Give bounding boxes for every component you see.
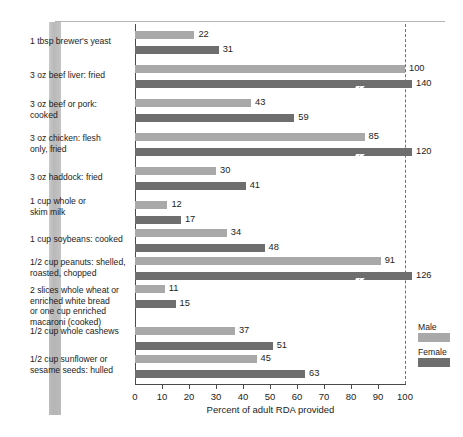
legend-label-female: Female: [418, 347, 460, 358]
x-axis-tick-label: 10: [157, 391, 168, 402]
x-axis-tick: [324, 384, 325, 389]
bar-value-label: 59: [298, 112, 308, 122]
legend-swatch-male: [418, 333, 450, 342]
x-axis-tick: [216, 384, 217, 389]
bar-value-label: 12: [171, 199, 181, 209]
bar-female: [135, 244, 265, 252]
bar-female: [135, 46, 219, 54]
x-axis-tick-label: 30: [211, 391, 222, 402]
x-axis-tick: [270, 384, 271, 389]
x-axis-tick: [297, 384, 298, 389]
bar-value-label: 45: [261, 353, 271, 363]
bar-male: [135, 99, 251, 107]
bar-male: [135, 167, 216, 175]
bar-male: [135, 65, 405, 73]
category-label: 1 tbsp brewer's yeast: [30, 36, 133, 47]
x-axis-tick: [351, 384, 352, 389]
x-axis-tick-label: 40: [238, 391, 249, 402]
bar-female: [135, 148, 412, 156]
category-label: 3 oz haddock: fried: [30, 172, 133, 183]
bar-value-label: 11: [169, 283, 179, 293]
bar-value-label: 120: [416, 146, 432, 156]
chart-figure: 1 tbsp brewer's yeast3 oz beef liver: fr…: [0, 0, 463, 437]
category-label: 1 cup soybeans: cooked: [30, 234, 133, 245]
bar-male: [135, 229, 227, 237]
category-label: 1/2 cup whole cashews: [30, 326, 133, 337]
bar-value-label: 37: [239, 325, 249, 335]
category-label: 3 oz beef or pork:cooked: [30, 99, 133, 120]
bar-female: [135, 300, 176, 308]
x-axis-tick-label: 70: [319, 391, 330, 402]
category-label: 2 slices whole wheat orenriched white br…: [30, 285, 133, 327]
bar-value-label: 43: [255, 97, 265, 107]
legend: Male Female: [418, 322, 460, 372]
bar-value-label: 126: [416, 270, 432, 280]
bar-male: [135, 355, 257, 363]
x-axis-tick: [162, 384, 163, 389]
bar-value-label: 34: [231, 227, 241, 237]
x-axis-tick-label: 20: [184, 391, 195, 402]
bar-value-label: 17: [185, 214, 195, 224]
bar-female: [135, 272, 412, 280]
category-label: 1 cup whole orskim milk: [30, 196, 133, 217]
bar-female: [135, 182, 246, 190]
bar-female: [135, 114, 294, 122]
legend-swatch-female: [418, 358, 450, 367]
x-axis-tick-label: 90: [373, 391, 384, 402]
x-axis-tick-label: 100: [397, 391, 413, 402]
bar-female: [135, 80, 412, 88]
category-label: 1/2 cup sunflower orsesame seeds: hulled: [30, 354, 133, 375]
bar-value-label: 31: [223, 44, 233, 54]
bar-value-label: 140: [416, 78, 432, 88]
bar-male: [135, 257, 381, 265]
bar-female: [135, 370, 305, 378]
bar-value-label: 22: [198, 29, 208, 39]
bar-value-label: 15: [180, 298, 190, 308]
figure-top-rule: [55, 21, 445, 22]
legend-label-male: Male: [418, 322, 460, 333]
category-label: 1/2 cup peanuts: shelled,roasted, choppe…: [30, 257, 133, 278]
bar-value-label: 48: [269, 242, 279, 252]
x-axis-tick-label: 80: [346, 391, 357, 402]
bar-value-label: 51: [277, 340, 287, 350]
category-label: 3 oz beef liver: fried: [30, 70, 133, 81]
bar-value-label: 30: [220, 165, 230, 175]
bar-male: [135, 285, 165, 293]
reference-line-100: [405, 24, 406, 384]
bar-male: [135, 133, 365, 141]
x-axis-tick-label: 50: [265, 391, 276, 402]
bar-value-label: 100: [409, 63, 425, 73]
category-label: 3 oz chicken: fleshonly, fried: [30, 133, 133, 154]
x-axis-tick-label: 0: [132, 391, 137, 402]
bar-male: [135, 201, 167, 209]
x-axis-title: Percent of adult RDA provided: [135, 404, 406, 415]
bar-value-label: 85: [369, 131, 379, 141]
x-axis-tick: [189, 384, 190, 389]
x-axis-tick-label: 60: [292, 391, 303, 402]
bar-value-label: 63: [309, 368, 319, 378]
bar-male: [135, 31, 194, 39]
x-axis-tick: [243, 384, 244, 389]
bar-male: [135, 327, 235, 335]
bar-female: [135, 342, 273, 350]
bar-female: [135, 216, 181, 224]
x-axis-tick: [378, 384, 379, 389]
bar-value-label: 41: [250, 180, 260, 190]
bar-value-label: 91: [385, 255, 395, 265]
